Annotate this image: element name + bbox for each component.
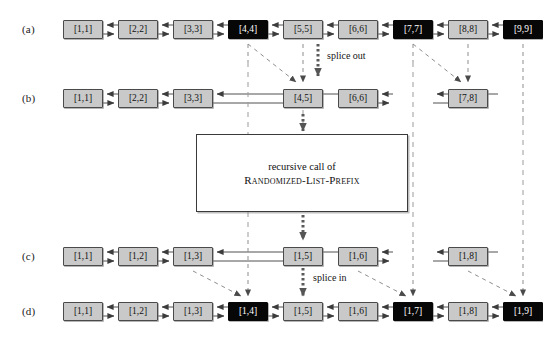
list-node[interactable]: [3,3] <box>173 89 213 108</box>
list-node[interactable]: [1,5] <box>283 247 323 266</box>
list-node[interactable]: [6,6] <box>338 20 378 39</box>
row-label-b: (b) <box>22 92 35 104</box>
list-node[interactable]: [1,3] <box>173 302 213 321</box>
list-node[interactable]: [1,1] <box>63 89 103 108</box>
list-node[interactable]: [1,6] <box>338 247 378 266</box>
row-label-c: (c) <box>22 250 35 262</box>
list-node[interactable]: [1,7] <box>393 302 433 321</box>
list-node[interactable]: [4,4] <box>228 20 268 39</box>
row-label-a: (a) <box>22 23 35 35</box>
list-node[interactable]: [1,2] <box>118 302 158 321</box>
list-node[interactable]: [1,1] <box>63 247 103 266</box>
list-node[interactable]: [1,2] <box>118 247 158 266</box>
list-node[interactable]: [6,6] <box>338 89 378 108</box>
list-node[interactable]: [7,8] <box>448 89 488 108</box>
list-node[interactable]: [1,8] <box>448 302 488 321</box>
list-node[interactable]: [8,8] <box>448 20 488 39</box>
list-node[interactable]: [1,4] <box>228 302 268 321</box>
list-node[interactable]: [4,5] <box>283 89 323 108</box>
list-node[interactable]: [1,5] <box>283 302 323 321</box>
guides-a-to-b <box>248 44 523 120</box>
list-node[interactable]: [1,1] <box>63 20 103 39</box>
list-node[interactable]: [1,6] <box>338 302 378 321</box>
list-node[interactable]: [1,9] <box>503 302 543 321</box>
list-node[interactable]: [2,2] <box>118 89 158 108</box>
list-node[interactable]: [2,2] <box>118 20 158 39</box>
recursive-call-line1: recursive call of <box>268 161 336 172</box>
list-node[interactable]: [3,3] <box>173 20 213 39</box>
list-node[interactable]: [9,9] <box>503 20 543 39</box>
recursive-call-line2: Randomized-List-Prefix <box>244 174 359 186</box>
list-node[interactable]: [5,5] <box>283 20 323 39</box>
row-label-d: (d) <box>22 305 35 317</box>
recursive-call-box: recursive call of Randomized-List-Prefix <box>196 134 408 212</box>
splice-in-label: splice in <box>313 272 347 283</box>
splice-out-label: splice out <box>327 50 366 61</box>
list-node[interactable]: [1,8] <box>448 247 488 266</box>
list-node[interactable]: [1,1] <box>63 302 103 321</box>
list-node[interactable]: [1,3] <box>173 247 213 266</box>
list-node[interactable]: [7,7] <box>393 20 433 39</box>
